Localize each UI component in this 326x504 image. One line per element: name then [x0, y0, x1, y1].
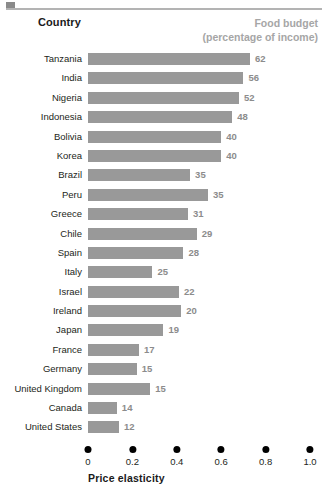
x-axis-tick: 0.4 — [170, 446, 183, 467]
bar-value-label: 56 — [248, 71, 259, 85]
country-label: France — [0, 343, 82, 357]
chart-header: Country Food budget (percentage of incom… — [0, 16, 326, 48]
bar-value-label: 22 — [184, 285, 195, 299]
tick-dot-icon — [129, 446, 136, 453]
country-label: Ireland — [0, 304, 82, 318]
tick-label: 0.4 — [170, 456, 183, 467]
bar-value-label: 12 — [124, 420, 135, 434]
bar — [88, 53, 250, 65]
table-row: France17 — [0, 343, 326, 362]
x-axis-tick: 1.0 — [303, 446, 316, 467]
table-row: Israel22 — [0, 285, 326, 304]
bar-value-label: 52 — [244, 91, 255, 105]
table-row: Indonesia48 — [0, 110, 326, 129]
tick-dot-icon — [307, 446, 314, 453]
bar-value-label: 40 — [226, 149, 237, 163]
bar-value-label: 28 — [188, 246, 199, 260]
table-row: United Kingdom15 — [0, 382, 326, 401]
bar-value-label: 35 — [213, 188, 224, 202]
bar-value-label: 40 — [226, 130, 237, 144]
column-header-country: Country — [38, 16, 81, 28]
table-row: Peru35 — [0, 188, 326, 207]
country-label: Tanzania — [0, 52, 82, 66]
table-row: United States12 — [0, 420, 326, 439]
bar-value-label: 48 — [237, 110, 248, 124]
table-row: Brazil35 — [0, 168, 326, 187]
bar — [88, 189, 208, 201]
country-label: Chile — [0, 227, 82, 241]
bar — [88, 324, 163, 336]
country-label: United States — [0, 420, 82, 434]
tick-dot-icon — [173, 446, 180, 453]
bar — [88, 383, 150, 395]
x-axis-tick: 0.8 — [259, 446, 272, 467]
bar-value-label: 35 — [195, 168, 206, 182]
bar-value-label: 17 — [144, 343, 155, 357]
table-row: Korea40 — [0, 149, 326, 168]
country-label: Israel — [0, 285, 82, 299]
food-budget-header-line2: (percentage of income) — [202, 30, 318, 44]
bar — [88, 150, 221, 162]
bar — [88, 344, 139, 356]
country-label: Bolivia — [0, 130, 82, 144]
country-label: Greece — [0, 207, 82, 221]
country-label: India — [0, 71, 82, 85]
bar — [88, 92, 239, 104]
table-row: Tanzania62 — [0, 52, 326, 71]
bar-rows: Tanzania62India56Nigeria52Indonesia48Bol… — [0, 52, 326, 440]
bar — [88, 402, 117, 414]
bar-value-label: 15 — [142, 362, 153, 376]
bar-value-label: 31 — [193, 207, 204, 221]
bar-value-label: 25 — [157, 265, 168, 279]
top-ornament — [0, 2, 326, 11]
table-row: Germany15 — [0, 362, 326, 381]
tick-dot-icon — [218, 446, 225, 453]
country-label: Korea — [0, 149, 82, 163]
table-row: Canada14 — [0, 401, 326, 420]
tick-label: 0.2 — [126, 456, 139, 467]
x-axis-title: Price elasticity — [88, 472, 165, 484]
bar — [88, 363, 137, 375]
country-label: Brazil — [0, 168, 82, 182]
country-label: Japan — [0, 323, 82, 337]
bar — [88, 131, 221, 143]
bar — [88, 421, 119, 433]
tick-dot-icon — [85, 446, 92, 453]
table-row: Japan19 — [0, 323, 326, 342]
bar — [88, 247, 183, 259]
table-row: Spain28 — [0, 246, 326, 265]
table-row: Ireland20 — [0, 304, 326, 323]
country-label: Nigeria — [0, 91, 82, 105]
bar-value-label: 20 — [186, 304, 197, 318]
country-label: Spain — [0, 246, 82, 260]
bar — [88, 266, 152, 278]
country-label: Canada — [0, 401, 82, 415]
bar — [88, 72, 243, 84]
bar — [88, 169, 190, 181]
bar — [88, 208, 188, 220]
table-row: Greece31 — [0, 207, 326, 226]
table-row: Bolivia40 — [0, 130, 326, 149]
bar-value-label: 19 — [168, 323, 179, 337]
x-axis: 00.20.40.60.81.0 Price elasticity — [0, 446, 326, 504]
bar — [88, 305, 181, 317]
x-axis-tick: 0 — [85, 446, 92, 467]
tick-label: 0.6 — [215, 456, 228, 467]
tick-label: 1.0 — [303, 456, 316, 467]
x-axis-tick: 0.6 — [215, 446, 228, 467]
food-budget-header-line1: Food budget — [202, 16, 318, 30]
tick-label: 0 — [85, 456, 92, 467]
table-row: Nigeria52 — [0, 91, 326, 110]
x-axis-tick: 0.2 — [126, 446, 139, 467]
bar — [88, 286, 179, 298]
table-row: Chile29 — [0, 227, 326, 246]
bar-value-label: 29 — [202, 227, 213, 241]
country-label: Italy — [0, 265, 82, 279]
tick-dot-icon — [262, 446, 269, 453]
country-label: Peru — [0, 188, 82, 202]
country-label: United Kingdom — [0, 382, 82, 396]
country-label: Germany — [0, 362, 82, 376]
tick-label: 0.8 — [259, 456, 272, 467]
bar-value-label: 62 — [255, 52, 266, 66]
table-row: Italy25 — [0, 265, 326, 284]
